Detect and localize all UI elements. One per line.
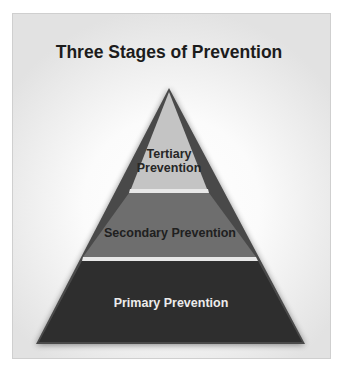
- tertiary-label-line2: Prevention: [137, 161, 202, 175]
- tertiary-label-line1: Tertiary: [147, 147, 192, 161]
- divider-line: [82, 257, 258, 261]
- primary-label: Primary Prevention: [114, 296, 229, 310]
- pyramid-diagram: Three Stages of Prevention Tertiary Prev…: [0, 0, 343, 377]
- secondary-label: Secondary Prevention: [104, 226, 236, 240]
- diagram-title: Three Stages of Prevention: [56, 42, 283, 62]
- pyramid-level-secondary: [83, 193, 256, 257]
- divider-line: [129, 189, 209, 193]
